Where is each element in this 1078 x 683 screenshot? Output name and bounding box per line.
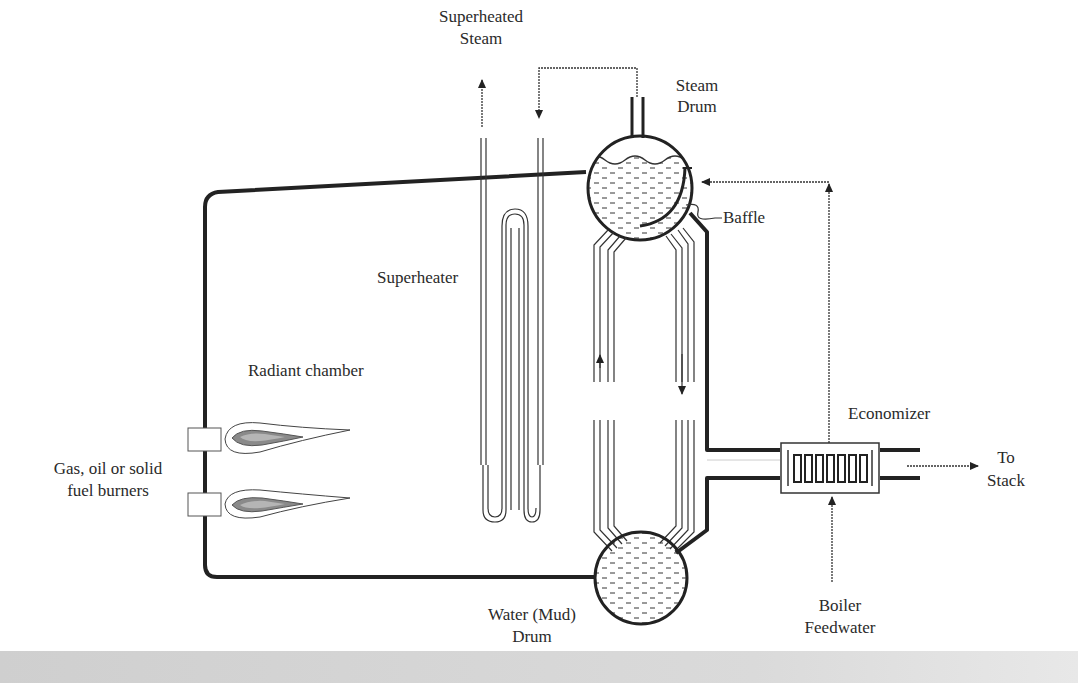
svg-text:Drum: Drum <box>512 627 552 646</box>
svg-text:Steam: Steam <box>460 29 503 48</box>
label-superheated-steam: Superheated <box>439 7 524 26</box>
label-to-stack: To <box>997 448 1015 467</box>
label-steam-drum: Steam <box>676 76 719 95</box>
label-burners: Gas, oil or solid <box>54 459 163 478</box>
label-radiant-chamber: Radiant chamber <box>248 361 364 380</box>
boiler-diagram: Superheated Steam Steam Drum Baffle Supe… <box>0 0 1078 683</box>
generating-tubes <box>594 228 694 551</box>
label-superheater: Superheater <box>377 268 459 287</box>
burner-top <box>188 423 350 454</box>
label-boiler-feedwater: Boiler <box>819 596 862 615</box>
svg-text:Feedwater: Feedwater <box>805 618 876 637</box>
page-bottom-edge <box>0 651 1078 683</box>
economizer <box>781 443 879 493</box>
burner-bottom <box>188 490 350 518</box>
label-economizer: Economizer <box>848 404 930 423</box>
svg-text:Stack: Stack <box>987 471 1025 490</box>
label-baffle: Baffle <box>723 208 765 227</box>
steam-to-superheater-arrow <box>539 68 637 118</box>
svg-text:Drum: Drum <box>677 97 717 116</box>
water-mud-drum <box>595 532 687 624</box>
superheater-tubes <box>481 138 543 522</box>
label-water-mud-drum: Water (Mud) <box>488 605 576 624</box>
svg-text:fuel burners: fuel burners <box>67 481 149 500</box>
steam-drum <box>580 97 700 250</box>
